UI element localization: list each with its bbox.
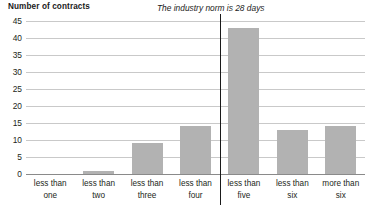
x-label-line2: three	[123, 190, 171, 202]
x-axis-labels: less thanoneless thantwoless thanthreele…	[26, 178, 365, 214]
x-axis-line	[26, 174, 365, 175]
y-tick-label: 30	[0, 68, 22, 76]
x-label-line2: two	[74, 190, 122, 202]
x-label-line1: less than	[171, 178, 219, 190]
industry-norm-annotation: The industry norm is 28 days	[157, 3, 265, 13]
y-tick-label: 10	[0, 136, 22, 144]
x-category-label: less thanone	[26, 178, 74, 201]
bar	[180, 126, 211, 174]
x-label-line1: more than	[317, 178, 365, 190]
bar	[228, 28, 259, 174]
industry-norm-divider-line	[220, 14, 221, 205]
x-label-line2: one	[26, 190, 74, 202]
x-label-line2: four	[171, 190, 219, 202]
x-category-label: less thanfive	[220, 178, 268, 201]
bar	[325, 126, 356, 174]
y-tick-label: 25	[0, 85, 22, 93]
y-tick-label: 35	[0, 51, 22, 59]
bars-layer	[26, 21, 365, 174]
x-label-line1: less than	[74, 178, 122, 190]
x-label-line1: less than	[268, 178, 316, 190]
y-axis-ticks: 051015202530354045	[0, 0, 22, 215]
x-label-line2: six	[268, 190, 316, 202]
bar	[132, 143, 163, 174]
x-label-line1: less than	[220, 178, 268, 190]
x-category-label: more thansix	[317, 178, 365, 201]
x-category-label: less thanthree	[123, 178, 171, 201]
x-label-line1: less than	[26, 178, 74, 190]
x-category-label: less thanfour	[171, 178, 219, 201]
x-label-line2: five	[220, 190, 268, 202]
y-tick-label: 20	[0, 102, 22, 110]
x-label-line2: six	[317, 190, 365, 202]
x-category-label: less thansix	[268, 178, 316, 201]
bar-chart: Number of contracts The industry norm is…	[0, 0, 369, 215]
x-label-line1: less than	[123, 178, 171, 190]
y-tick-label: 0	[0, 170, 22, 178]
x-category-label: less thantwo	[74, 178, 122, 201]
y-tick-label: 40	[0, 34, 22, 42]
y-tick-label: 15	[0, 119, 22, 127]
y-tick-label: 45	[0, 17, 22, 25]
bar	[277, 130, 308, 174]
y-tick-label: 5	[0, 153, 22, 161]
